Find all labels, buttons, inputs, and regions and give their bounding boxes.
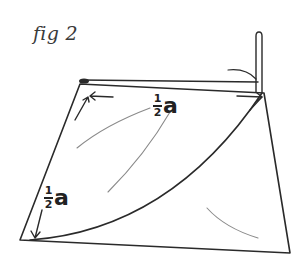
variable: a xyxy=(163,95,178,117)
arrow-left-top xyxy=(90,92,113,100)
main-arc xyxy=(30,93,262,240)
pole xyxy=(256,32,262,92)
fraction: 1 2 xyxy=(44,186,53,210)
top-double-line xyxy=(82,80,258,82)
figure-title: fig 2 xyxy=(33,22,78,44)
faint-curve-middle xyxy=(108,112,170,192)
arrow-to-pole-base xyxy=(250,97,262,110)
arrow-right-top xyxy=(237,93,262,101)
arrow-up-left-edge xyxy=(75,97,89,120)
numerator: 1 xyxy=(45,186,53,196)
denominator: 2 xyxy=(45,200,53,210)
pole-curved-arrow xyxy=(228,70,256,79)
denominator: 2 xyxy=(154,108,162,118)
arrow-down-bottom-left xyxy=(31,210,42,238)
label-half-a-left: 1 2 a xyxy=(44,186,69,210)
numerator: 1 xyxy=(154,94,162,104)
variable: a xyxy=(54,187,69,209)
label-half-a-top: 1 2 a xyxy=(153,94,178,118)
fraction: 1 2 xyxy=(153,94,162,118)
faint-curve-upper-left xyxy=(77,108,150,148)
corner-pin xyxy=(79,78,89,83)
faint-curve-bottom-right xyxy=(207,208,258,238)
